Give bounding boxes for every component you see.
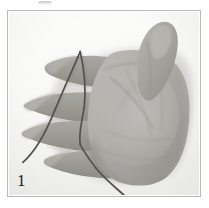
figure-number-label: 1 [17, 172, 26, 189]
figure-frame: 1 [7, 10, 201, 197]
hand-photo-illustration [9, 12, 199, 195]
scan-smudge-artifact [38, 1, 52, 5]
figure-page: 1 [0, 0, 209, 208]
photo-tone-overlay [9, 12, 199, 195]
figure-photograph [9, 12, 199, 195]
